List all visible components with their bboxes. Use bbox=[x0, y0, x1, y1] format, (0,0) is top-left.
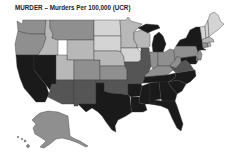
state-NM bbox=[74, 80, 96, 106]
state-MT bbox=[50, 20, 94, 40]
state-CT bbox=[202, 43, 208, 48]
state-HI bbox=[17, 136, 29, 147]
state-KS bbox=[100, 66, 127, 80]
state-IA bbox=[121, 48, 141, 62]
state-MI-lower bbox=[152, 32, 166, 52]
state-AK bbox=[32, 111, 88, 148]
state-IN bbox=[150, 52, 158, 69]
state-ME bbox=[208, 12, 224, 37]
state-FL bbox=[150, 100, 183, 131]
state-WY bbox=[67, 40, 94, 60]
state-ND bbox=[94, 20, 121, 36]
state-SD bbox=[94, 36, 121, 52]
state-RI bbox=[208, 42, 211, 47]
state-CO bbox=[74, 60, 100, 80]
state-WA bbox=[17, 20, 46, 34]
us-choropleth-map bbox=[0, 0, 242, 159]
state-AR bbox=[128, 84, 142, 97]
